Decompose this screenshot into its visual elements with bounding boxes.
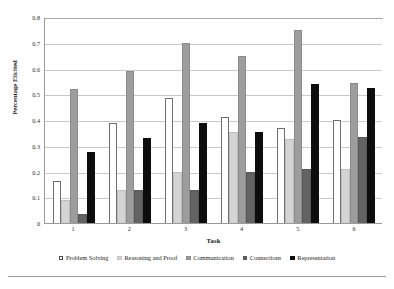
bar-group (270, 18, 326, 223)
legend-item: Representation (290, 255, 335, 261)
bar (311, 84, 320, 223)
bar (126, 71, 135, 223)
bar (182, 43, 191, 223)
x-axis-tick-labels: 123456 (45, 226, 382, 232)
bar (350, 83, 359, 223)
bar (190, 190, 199, 223)
bar (255, 132, 264, 223)
legend-swatch-icon (186, 256, 191, 261)
legend-label: Reasoning and Proof (124, 255, 177, 261)
x-axis-tick-label: 1 (45, 226, 101, 232)
bar (285, 139, 294, 223)
x-axis-tick-label: 6 (326, 226, 382, 232)
legend-label: Representation (297, 255, 335, 261)
bar (109, 123, 118, 223)
x-axis-title: Task (45, 237, 382, 244)
bar (333, 120, 342, 223)
bar-group (158, 18, 214, 223)
bar (341, 169, 350, 223)
bar (277, 128, 286, 223)
legend-label: Communication (193, 255, 234, 261)
bar-group (102, 18, 158, 223)
y-axis-tick-label: 0.6 (0, 67, 40, 73)
bar-group (46, 18, 102, 223)
bar-group (214, 18, 270, 223)
legend-item: Connections (243, 255, 281, 261)
legend-item: Communication (186, 255, 234, 261)
bar (294, 30, 303, 223)
x-axis-tick-label: 4 (214, 226, 270, 232)
bar (70, 89, 79, 223)
legend-swatch-icon (59, 256, 64, 261)
y-axis-tick-label: 0.4 (0, 118, 40, 124)
legend-swatch-icon (243, 256, 248, 261)
bar (246, 172, 255, 224)
chart-legend: Problem SolvingReasoning and ProofCommun… (0, 255, 394, 261)
bar (229, 132, 238, 223)
bar (78, 214, 87, 223)
bar (117, 190, 126, 223)
bar (87, 152, 96, 223)
bar (61, 200, 70, 223)
legend-item: Reasoning and Proof (117, 255, 177, 261)
y-axis-tick-label: 0.1 (0, 195, 40, 201)
bar (53, 181, 62, 223)
bottom-divider (8, 276, 386, 277)
bar (238, 56, 247, 223)
y-axis-tick-label: 0.2 (0, 170, 40, 176)
bar (302, 169, 311, 223)
legend-label: Problem Solving (66, 255, 109, 261)
x-axis-tick-label: 5 (270, 226, 326, 232)
bar (367, 88, 376, 223)
plot-area (44, 18, 382, 224)
x-axis-tick-label: 3 (157, 226, 213, 232)
legend-swatch-icon (117, 256, 122, 261)
chart-figure: 00.10.20.30.40.50.60.70.8 Percentage Eli… (0, 0, 394, 289)
bar (221, 117, 230, 223)
y-axis-tick-label: 0.5 (0, 92, 40, 98)
bar-group (326, 18, 382, 223)
bar (134, 190, 143, 223)
y-axis-tick-label: 0.7 (0, 41, 40, 47)
bar (199, 123, 208, 223)
x-axis-tick-label: 2 (101, 226, 157, 232)
y-axis-tick-label: 0 (0, 221, 40, 227)
y-axis-tick-label: 0.3 (0, 144, 40, 150)
y-axis-tick-label: 0.8 (0, 15, 40, 21)
bar (173, 172, 182, 224)
bar (143, 138, 152, 223)
legend-item: Problem Solving (59, 255, 109, 261)
bar (358, 137, 367, 223)
bar-groups (46, 18, 382, 223)
bar (165, 98, 174, 223)
legend-swatch-icon (290, 256, 295, 261)
legend-label: Connections (250, 255, 281, 261)
